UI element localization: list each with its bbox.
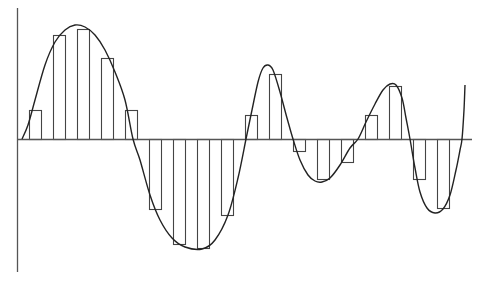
sample-bar: [390, 87, 402, 140]
sample-bar: [318, 140, 330, 180]
waveform-curve: [22, 25, 465, 250]
sample-bar: [78, 30, 90, 140]
sample-bar: [270, 75, 282, 140]
waveform-canvas: [0, 0, 486, 286]
sample-bar: [414, 140, 426, 180]
sample-bar: [438, 140, 450, 209]
sample-bar: [174, 140, 186, 245]
sample-bar: [198, 140, 210, 249]
sample-bar: [54, 36, 66, 140]
sample-bar: [102, 59, 114, 140]
waveform-diagram: [0, 0, 486, 286]
